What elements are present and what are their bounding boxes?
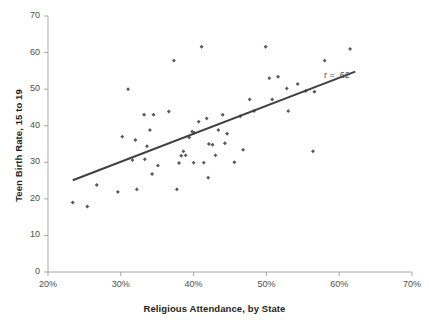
data-point (150, 172, 154, 176)
data-point (312, 90, 316, 94)
y-tick-label: 0 (16, 266, 40, 276)
data-point (323, 59, 327, 63)
data-point (276, 75, 280, 79)
data-point (143, 157, 147, 161)
data-point (133, 138, 137, 142)
data-point (296, 82, 300, 86)
regression-line (73, 72, 355, 181)
data-point (232, 160, 236, 164)
data-point (95, 183, 99, 187)
data-point (211, 143, 215, 147)
correlation-annotation: r = .62 (324, 70, 350, 80)
scatter-plot-figure: 010203040506070 20%30%40%50%60%70% r = .… (0, 0, 429, 328)
x-tick-label: 40% (174, 279, 214, 289)
data-point (200, 45, 204, 49)
data-point (156, 164, 160, 168)
data-point (197, 120, 201, 124)
data-point (116, 190, 120, 194)
y-tick-label: 70 (16, 10, 40, 20)
data-point (85, 205, 89, 209)
data-point (202, 161, 206, 165)
data-point (126, 87, 130, 91)
data-point (311, 149, 315, 153)
y-axis-title: Teen Birth Rate, 15 to 19 (13, 36, 24, 256)
data-point (207, 142, 211, 146)
data-point (120, 135, 124, 139)
data-point (167, 109, 171, 113)
data-point (71, 201, 75, 205)
data-point (264, 45, 268, 49)
y-axis (44, 16, 48, 272)
data-point (142, 113, 146, 117)
data-point (179, 154, 183, 158)
data-point (241, 148, 245, 152)
data-point (175, 187, 179, 191)
data-point (184, 153, 188, 157)
x-tick-label: 70% (392, 279, 429, 289)
data-point (172, 59, 176, 63)
data-point (213, 153, 217, 157)
data-point (192, 161, 196, 165)
data-point (148, 128, 152, 132)
data-point (267, 76, 271, 80)
data-point (135, 187, 139, 191)
data-point (181, 149, 185, 153)
data-point (248, 97, 252, 101)
data-point (216, 128, 220, 132)
data-point (205, 116, 209, 120)
x-tick-label: 50% (246, 279, 286, 289)
data-point (177, 161, 181, 165)
data-point (206, 176, 210, 180)
data-point (145, 144, 149, 148)
data-point (285, 86, 289, 90)
x-tick-label: 20% (28, 279, 68, 289)
data-point (225, 132, 229, 136)
data-point (221, 113, 225, 117)
x-tick-label: 30% (101, 279, 141, 289)
data-point (270, 97, 274, 101)
data-point (348, 47, 352, 51)
x-axis (48, 272, 412, 276)
x-axis-title: Religious Attendance, by State (0, 303, 429, 314)
regression-line-layer (73, 72, 355, 181)
data-point (152, 113, 156, 117)
data-point (286, 109, 290, 113)
data-point (223, 141, 227, 145)
x-tick-label: 60% (319, 279, 359, 289)
